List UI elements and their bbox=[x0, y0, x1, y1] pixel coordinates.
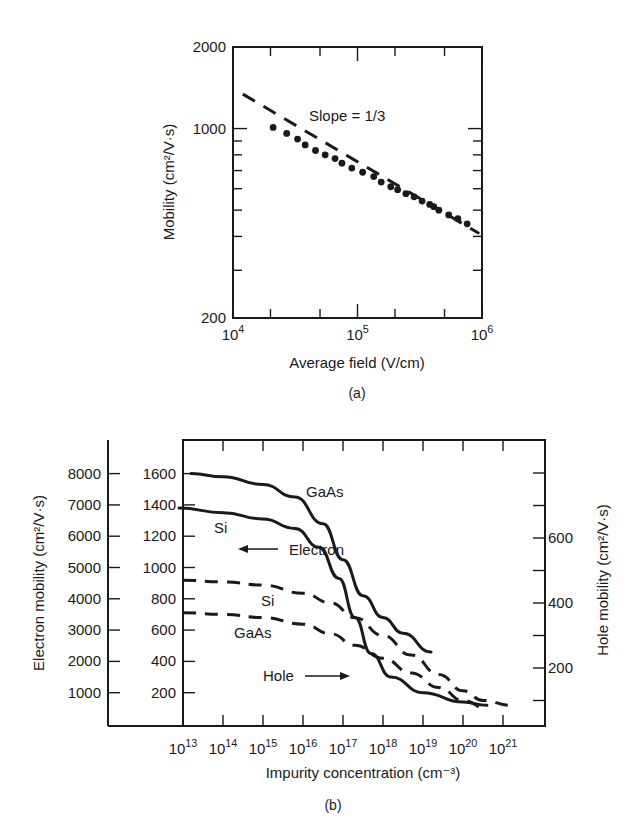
data-point bbox=[283, 130, 290, 137]
y-tick-label: 200 bbox=[201, 309, 226, 326]
x-tick-label: 1014 bbox=[209, 737, 238, 757]
data-point bbox=[270, 124, 277, 131]
hole-axis-label: Hole mobility (cm²/V·s) bbox=[594, 504, 611, 656]
x-tick-label: 1017 bbox=[329, 737, 358, 757]
curve-gaas-electron bbox=[191, 474, 431, 652]
electron-inner-tick-label: 1600 bbox=[143, 465, 176, 482]
figure-canvas: 20010002000 104105106 Slope = 1/3 Averag… bbox=[0, 0, 627, 826]
data-point bbox=[302, 142, 309, 149]
y-axis-label-a: Mobility (cm²/V·s) bbox=[160, 124, 177, 241]
axis-ticks-a bbox=[233, 47, 482, 318]
electron-outer-tick-label: 1000 bbox=[68, 684, 101, 701]
label-si-electron: Si bbox=[214, 519, 227, 536]
electron-arrow bbox=[238, 545, 278, 553]
data-series-b bbox=[179, 474, 511, 709]
label-gaas-hole: GaAs bbox=[234, 624, 272, 641]
electron-inner-tick-label: 800 bbox=[151, 590, 176, 607]
y-tick-label: 2000 bbox=[193, 38, 226, 55]
x-tick-label: 1013 bbox=[169, 737, 198, 757]
x-tick-label: 1021 bbox=[489, 737, 518, 757]
data-point bbox=[322, 151, 329, 158]
x-tick-label: 106 bbox=[471, 323, 494, 343]
x-tick-label: 1019 bbox=[409, 737, 438, 757]
data-point bbox=[359, 169, 366, 176]
electron-inner-tick-label: 200 bbox=[151, 684, 176, 701]
electron-axis-label: Electron mobility (cm²/V·s) bbox=[30, 495, 47, 671]
electron-outer-tick-label: 6000 bbox=[68, 527, 101, 544]
x-axis-label-b: Impurity concentration (cm⁻³) bbox=[266, 764, 461, 781]
y-tick-label: 1000 bbox=[193, 120, 226, 137]
hole-tick-label: 400 bbox=[548, 594, 573, 611]
chart-panel-a: 20010002000 104105106 Slope = 1/3 Averag… bbox=[160, 38, 493, 401]
data-point bbox=[294, 136, 301, 143]
electron-outer-tick-label: 3000 bbox=[68, 621, 101, 638]
electron-inner-tick-label: 1200 bbox=[143, 527, 176, 544]
data-point bbox=[378, 179, 385, 186]
y-tick-labels-a: 20010002000 bbox=[193, 38, 226, 326]
x-tick-label: 105 bbox=[346, 323, 369, 343]
x-axis-label-a: Average field (V/cm) bbox=[289, 354, 425, 371]
data-point bbox=[403, 190, 410, 197]
arrow-left-icon bbox=[238, 545, 248, 553]
data-point bbox=[332, 155, 339, 162]
x-tick-label: 1015 bbox=[249, 737, 278, 757]
electron-outer-tick-label: 5000 bbox=[68, 559, 101, 576]
electron-outer-tick-label: 8000 bbox=[68, 465, 101, 482]
slope-annotation: Slope = 1/3 bbox=[309, 107, 385, 124]
label-si-hole: Si bbox=[261, 592, 274, 609]
electron-outer-tick-label: 2000 bbox=[68, 652, 101, 669]
chart-panel-b: 8000700060005000400030002000100016001400… bbox=[30, 440, 611, 813]
label-hole: Hole bbox=[263, 667, 294, 684]
panel-caption-b: (b) bbox=[324, 797, 341, 813]
x-tick-label: 1020 bbox=[449, 737, 478, 757]
data-point bbox=[348, 165, 355, 172]
data-point bbox=[464, 220, 471, 227]
data-point bbox=[312, 147, 319, 154]
label-electron: Electron bbox=[289, 541, 344, 558]
electron-inner-tick-label: 600 bbox=[151, 621, 176, 638]
x-tick-label: 1018 bbox=[369, 737, 398, 757]
hole-arrow bbox=[305, 672, 350, 680]
x-tick-label: 104 bbox=[222, 323, 245, 343]
electron-inner-tick-label: 400 bbox=[151, 652, 176, 669]
plot-frame-a bbox=[233, 47, 482, 318]
electron-outer-tick-label: 7000 bbox=[68, 496, 101, 513]
curve-gaas-hole bbox=[183, 613, 487, 709]
arrow-right-icon bbox=[340, 672, 350, 680]
data-point bbox=[394, 186, 401, 193]
label-gaas-electron: GaAs bbox=[306, 483, 344, 500]
electron-inner-tick-label: 1400 bbox=[143, 496, 176, 513]
data-point bbox=[339, 160, 346, 167]
hole-tick-label: 200 bbox=[548, 659, 573, 676]
electron-outer-tick-label: 4000 bbox=[68, 590, 101, 607]
tick-labels-b: 8000700060005000400030002000100016001400… bbox=[68, 465, 573, 757]
electron-inner-tick-label: 1000 bbox=[143, 559, 176, 576]
x-tick-labels-a: 104105106 bbox=[222, 323, 494, 343]
hole-tick-label: 600 bbox=[548, 529, 573, 546]
x-tick-label: 1016 bbox=[289, 737, 318, 757]
panel-caption-a: (a) bbox=[348, 385, 365, 401]
